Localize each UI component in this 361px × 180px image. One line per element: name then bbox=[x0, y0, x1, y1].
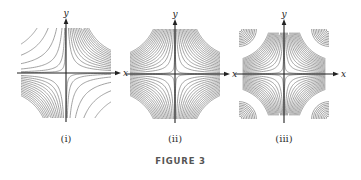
x-axis-label: x bbox=[123, 68, 128, 78]
figure-caption: FIGURE 3 bbox=[0, 156, 361, 166]
x-arrow-icon bbox=[333, 72, 339, 77]
panel-label-ii: (ii) bbox=[168, 133, 182, 144]
panel-iii: xy bbox=[235, 9, 346, 123]
x-arrow-icon bbox=[115, 71, 121, 76]
y-axis-label: y bbox=[63, 8, 70, 18]
figure-3: xy xy xy (i) (ii) (iii) bbox=[0, 0, 361, 180]
x-axis-label: x bbox=[341, 69, 346, 79]
y-arrow-icon bbox=[282, 19, 287, 25]
panel-label-i: (i) bbox=[60, 133, 71, 144]
y-axis-label: y bbox=[281, 9, 288, 19]
y-axis-label: y bbox=[172, 9, 179, 19]
y-arrow-icon bbox=[64, 18, 69, 24]
panel-i: xy bbox=[17, 8, 128, 122]
x-arrow-icon bbox=[224, 72, 230, 77]
y-arrow-icon bbox=[173, 19, 178, 25]
panel-label-iii: (iii) bbox=[275, 133, 292, 144]
panel-ii: xy bbox=[126, 9, 237, 123]
